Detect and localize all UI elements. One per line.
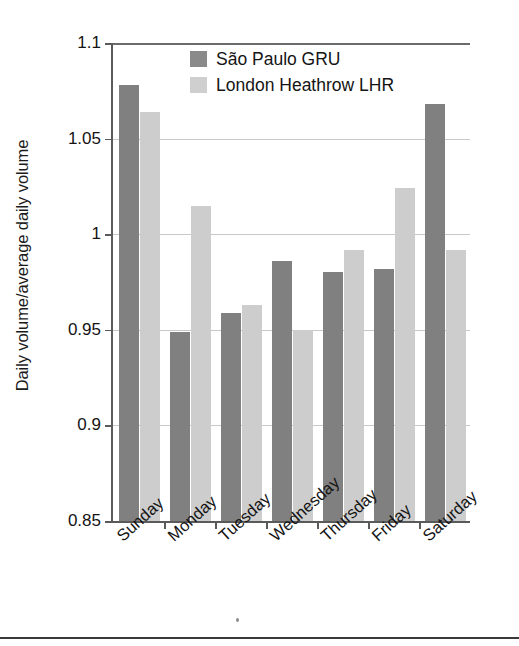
bar-group (119, 43, 160, 521)
y-axis-tick-label: 1 (92, 224, 101, 244)
y-axis-title-text: Daily volume/average daily volume (14, 139, 33, 391)
bar-series-2 (395, 188, 415, 521)
legend-item: London Heathrow LHR (190, 72, 440, 98)
bar-series-1 (272, 261, 292, 521)
page-divider-rule (0, 637, 519, 639)
bar-series-2 (344, 250, 364, 522)
y-axis-tick-mark (105, 330, 112, 332)
y-axis-tick-mark (105, 43, 112, 45)
bar-group (272, 43, 313, 521)
plot-area: 0.850.90.9511.051.1 (111, 43, 470, 523)
bar-group (425, 43, 466, 521)
y-axis-tick-label: 1.05 (68, 129, 101, 149)
bar-series-2 (140, 112, 160, 521)
y-axis-title: Daily volume/average daily volume (0, 0, 46, 530)
bar-chart-figure: Daily volume/average daily volume 0.850.… (0, 0, 519, 646)
legend-item: São Paulo GRU (190, 46, 440, 72)
legend-item-label: São Paulo GRU (216, 49, 341, 70)
bar-series-2 (446, 250, 466, 522)
bar-series-2 (191, 206, 211, 521)
bar-group (323, 43, 364, 521)
y-axis-tick-mark (105, 234, 112, 236)
bar-series-1 (221, 313, 241, 521)
bar-series-2 (242, 305, 262, 521)
chart-legend: São Paulo GRULondon Heathrow LHR (190, 46, 440, 98)
legend-item-label: London Heathrow LHR (216, 75, 394, 96)
bar-group (221, 43, 262, 521)
series-2-swatch (190, 77, 207, 93)
bar-group (170, 43, 211, 521)
x-axis-labels: SundayMondayTuesdayWednesdayThursdayFrid… (111, 521, 468, 621)
series-1-swatch (190, 51, 207, 67)
y-axis-tick-mark (105, 425, 112, 427)
y-axis-tick-label: 0.9 (77, 415, 101, 435)
bar-series-1 (374, 269, 394, 521)
bar-series-1 (170, 332, 190, 521)
y-axis-tick-label: 0.85 (68, 511, 101, 531)
y-axis-tick-label: 0.95 (68, 320, 101, 340)
scan-speck (236, 618, 239, 622)
y-axis-tick-mark (105, 139, 112, 141)
bar-group (374, 43, 415, 521)
bar-series-1 (425, 104, 445, 521)
y-axis-tick-label: 1.1 (77, 33, 101, 53)
bar-series-1 (119, 85, 139, 521)
